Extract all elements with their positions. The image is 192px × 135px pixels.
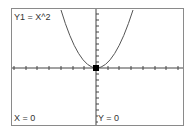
x-readout: X = 0 <box>14 113 35 123</box>
parabola-curve <box>61 10 133 68</box>
y-readout: Y = 0 <box>98 113 119 123</box>
trace-cursor[interactable] <box>93 65 99 71</box>
function-label: Y1 = X^2 <box>14 12 51 22</box>
